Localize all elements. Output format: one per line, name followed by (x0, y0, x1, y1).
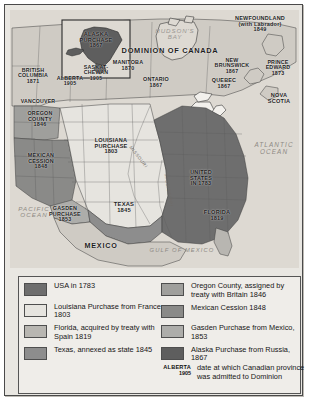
map-page: .g{stroke:#3c3c3c;stroke-width:.5;stroke… (0, 0, 309, 402)
legend-swatch-gasden (161, 325, 184, 338)
legend-swatch-mexican-cession (161, 305, 184, 318)
legend-swatch-alaska (161, 347, 184, 360)
legend-florida[interactable]: Florida, acquired by treaty with Spain 1… (24, 324, 161, 341)
legend-note-key-year: 1905 (161, 370, 191, 376)
legend-label-mexican-cession: Mexican Cession 1848 (191, 304, 266, 313)
legend-label-louisiana: Louisiana Purchase from France 1803 (54, 303, 161, 320)
legend-column-left: USA in 1783 Louisiana Purchase from Fran… (24, 282, 161, 366)
legend-label-usa-1783: USA in 1783 (54, 282, 95, 291)
legend-province-date-note: ALBERTA 1905 date at which Canadian prov… (161, 364, 309, 382)
legend-swatch-texas (24, 347, 47, 360)
legend-swatch-usa-1783 (24, 283, 47, 296)
map-legend: USA in 1783 Louisiana Purchase from Fran… (18, 276, 301, 394)
legend-note-key: ALBERTA 1905 (161, 364, 191, 376)
legend-swatch-louisiana (24, 304, 47, 317)
legend-label-texas: Texas, annexed as state 1845 (54, 346, 152, 355)
map-geometry: .g{stroke:#3c3c3c;stroke-width:.5;stroke… (10, 10, 299, 268)
legend-label-alaska: Alaska Purchase from Russia, 1867 (191, 346, 298, 363)
legend-label-florida: Florida, acquired by treaty with Spain 1… (54, 324, 161, 341)
legend-texas[interactable]: Texas, annexed as state 1845 (24, 346, 161, 362)
legend-oregon-county[interactable]: Oregon County, assigned by treaty with B… (161, 282, 298, 299)
legend-louisiana[interactable]: Louisiana Purchase from France 1803 (24, 303, 161, 320)
legend-swatch-florida (24, 325, 47, 338)
legend-label-oregon-county: Oregon County, assigned by treaty with B… (191, 282, 298, 299)
legend-label-gasden: Gasden Purchase from Mexico, 1853 (191, 324, 298, 341)
page-frame: .g{stroke:#3c3c3c;stroke-width:.5;stroke… (4, 4, 303, 396)
legend-note-text: date at which Canadian province was admi… (197, 364, 309, 382)
legend-swatch-oregon-county (161, 283, 184, 296)
legend-alaska[interactable]: Alaska Purchase from Russia, 1867 (161, 346, 298, 363)
legend-column-right: Oregon County, assigned by treaty with B… (161, 282, 298, 368)
legend-gasden[interactable]: Gasden Purchase from Mexico, 1853 (161, 324, 298, 341)
legend-usa-1783[interactable]: USA in 1783 (24, 282, 161, 298)
map-canvas[interactable]: .g{stroke:#3c3c3c;stroke-width:.5;stroke… (10, 10, 299, 268)
legend-mexican-cession[interactable]: Mexican Cession 1848 (161, 304, 298, 320)
